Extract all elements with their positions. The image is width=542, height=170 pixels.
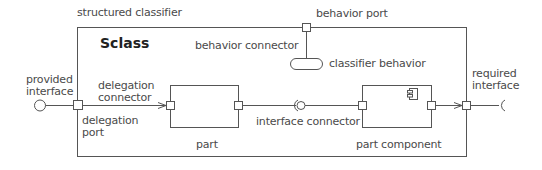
composite-structure-diagram: structured classifier Sclass behavior po… (0, 0, 542, 170)
delegation-port-label-line2: port (82, 127, 104, 139)
delegation-connector-label-line2: connector (98, 92, 151, 104)
classifier-behavior-shape (291, 59, 323, 70)
structured-classifier-label: structured classifier (77, 7, 182, 19)
behavior-connector-label: behavior connector (195, 40, 298, 52)
class-name-title: Sclass (100, 35, 149, 51)
classifier-behavior-label: classifier behavior (329, 58, 426, 70)
part-right-port-square (235, 102, 243, 110)
diagram-canvas (0, 0, 542, 170)
required-interface-label-line2: interface (472, 80, 519, 92)
part-box (171, 86, 239, 128)
part-component-left-port-square (359, 102, 367, 110)
provided-interface-lollipop-icon (35, 100, 46, 111)
part-component-box (363, 86, 432, 128)
part-component-label: part component (356, 139, 442, 151)
part-left-port-square (167, 102, 175, 110)
part-component-right-port-square (428, 102, 436, 110)
required-interface-socket-icon (501, 100, 505, 111)
provided-interface-label-line2: interface (26, 86, 73, 98)
interface-connector-label: interface connector (256, 116, 360, 128)
assembly-ball-icon (297, 102, 305, 110)
behavior-port-label: behavior port (316, 8, 388, 20)
required-port-square (463, 102, 471, 110)
component-icon (408, 89, 418, 100)
behavior-port-square (303, 24, 311, 32)
delegation-port-square (74, 101, 83, 110)
part-label: part (196, 139, 218, 151)
